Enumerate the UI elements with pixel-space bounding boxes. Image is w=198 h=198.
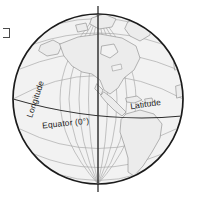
globe-diagram: Longitude Latitude Equator (0°) <box>0 0 198 198</box>
arctic-islet-a <box>76 23 88 32</box>
